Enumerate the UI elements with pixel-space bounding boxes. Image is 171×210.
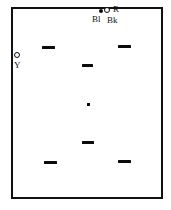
label-y: Y	[14, 61, 21, 70]
label-bl: Bl	[92, 15, 101, 24]
dash-bottom-right	[118, 160, 131, 163]
label-bk: Bk	[107, 16, 118, 25]
dash-upper-center	[82, 64, 93, 67]
marker-dot-bl	[99, 9, 103, 13]
diagram-canvas: R Bl Bk Y	[0, 0, 171, 210]
dash-bottom-left	[44, 161, 57, 164]
node-center-square	[87, 103, 90, 106]
label-r: R	[113, 5, 119, 14]
marker-ring-y	[14, 52, 20, 58]
marker-ring-bk	[104, 7, 110, 13]
dash-lower-center	[82, 141, 94, 144]
dash-top-right	[118, 45, 131, 48]
dash-top-left	[42, 46, 55, 49]
